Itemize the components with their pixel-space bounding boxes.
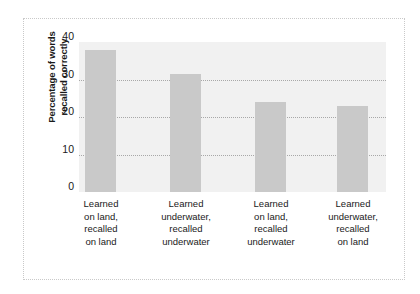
x-label-line: recalled bbox=[228, 223, 314, 236]
x-tick-label-3: Learned underwater, recalled on land bbox=[310, 198, 396, 249]
x-axis-tick-labels: Learned on land, recalled on land Learne… bbox=[79, 198, 386, 260]
bar-learned-underwater-recalled-land bbox=[337, 106, 368, 192]
x-label-line: underwater, bbox=[143, 211, 229, 224]
y-tick-label: 20 bbox=[62, 105, 74, 117]
plot-area bbox=[79, 42, 386, 192]
x-tick-label-0: Learned on land, recalled on land bbox=[58, 198, 144, 249]
x-label-line: on land bbox=[310, 236, 396, 249]
x-label-line: Learned bbox=[228, 198, 314, 211]
bar-learned-underwater-recalled-underwater bbox=[170, 74, 201, 192]
x-label-line: Learned bbox=[58, 198, 144, 211]
chart-figure: Percentage of words recalled correctly 0… bbox=[0, 0, 420, 294]
y-tick-label: 40 bbox=[62, 30, 74, 42]
x-label-line: Learned bbox=[310, 198, 396, 211]
bar-learned-land-recalled-land bbox=[85, 50, 116, 193]
y-tick-label: 10 bbox=[62, 143, 74, 155]
x-label-line: underwater, bbox=[310, 211, 396, 224]
bar-learned-land-recalled-underwater bbox=[255, 102, 286, 192]
x-tick-label-2: Learned on land, recalled underwater bbox=[228, 198, 314, 249]
x-label-line: Learned bbox=[143, 198, 229, 211]
y-tick-label: 0 bbox=[68, 180, 74, 192]
y-axis-tick-labels: 0 10 20 30 40 bbox=[52, 36, 74, 196]
y-tick-label: 30 bbox=[62, 68, 74, 80]
x-label-line: underwater bbox=[228, 236, 314, 249]
x-label-line: recalled bbox=[143, 223, 229, 236]
x-label-line: recalled bbox=[310, 223, 396, 236]
bar-series bbox=[79, 42, 386, 192]
x-label-line: on land, bbox=[58, 211, 144, 224]
x-label-line: underwater bbox=[143, 236, 229, 249]
x-label-line: on land, bbox=[228, 211, 314, 224]
x-label-line: on land bbox=[58, 236, 144, 249]
x-label-line: recalled bbox=[58, 223, 144, 236]
x-tick-label-1: Learned underwater, recalled underwater bbox=[143, 198, 229, 249]
